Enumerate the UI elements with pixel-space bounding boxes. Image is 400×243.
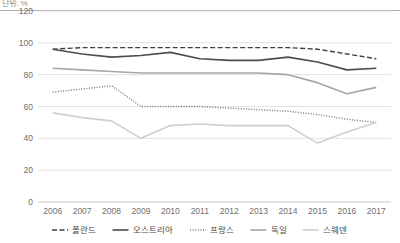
series-line — [53, 49, 377, 70]
series-lines — [53, 48, 377, 144]
y-tick-100: 100 — [19, 38, 33, 48]
legend-label: 독일 — [271, 225, 287, 235]
legend-item[interactable]: 프랑스 — [190, 225, 234, 235]
legend-label: 프랑스 — [210, 225, 234, 235]
x-tick-2015: 2015 — [308, 206, 327, 216]
y-tick-80: 80 — [24, 70, 34, 80]
y-tick-20: 20 — [24, 165, 34, 175]
x-tick-2008: 2008 — [102, 206, 121, 216]
series-line — [53, 86, 377, 123]
legend-label: 스웨덴 — [323, 225, 347, 235]
legend-item[interactable]: 독일 — [251, 225, 287, 235]
x-tick-2007: 2007 — [73, 206, 92, 216]
series-line — [53, 68, 377, 93]
x-tick-2017: 2017 — [367, 206, 386, 216]
line-chart: 단위: % 020406080100120 200620072008200920… — [0, 0, 400, 243]
x-tick-2009: 2009 — [131, 206, 150, 216]
chart-legend: 폴란드오스트리아프랑스독일스웨덴 — [52, 225, 347, 235]
x-axis-ticks: 2006200720082009201020112012201320142015… — [43, 206, 386, 216]
legend-item[interactable]: 오스트리아 — [113, 225, 173, 235]
x-tick-2016: 2016 — [337, 206, 356, 216]
y-tick-60: 60 — [24, 102, 34, 112]
legend-item[interactable]: 스웨덴 — [303, 225, 347, 235]
x-tick-2014: 2014 — [279, 206, 298, 216]
x-tick-2010: 2010 — [161, 206, 180, 216]
legend-item[interactable]: 폴란드 — [52, 225, 96, 235]
x-tick-2006: 2006 — [43, 206, 62, 216]
legend-label: 오스트리아 — [133, 225, 173, 235]
x-tick-2013: 2013 — [249, 206, 268, 216]
y-tick-40: 40 — [24, 133, 34, 143]
axis-unit-label: 단위: % — [2, 0, 28, 8]
y-tick-0: 0 — [28, 197, 33, 207]
series-line — [53, 48, 377, 59]
x-tick-2012: 2012 — [220, 206, 239, 216]
chart-canvas: 020406080100120 200620072008200920102011… — [0, 0, 400, 243]
legend-label: 폴란드 — [72, 225, 96, 235]
x-tick-2011: 2011 — [191, 206, 210, 216]
y-axis-ticks: 020406080100120 — [19, 6, 33, 207]
